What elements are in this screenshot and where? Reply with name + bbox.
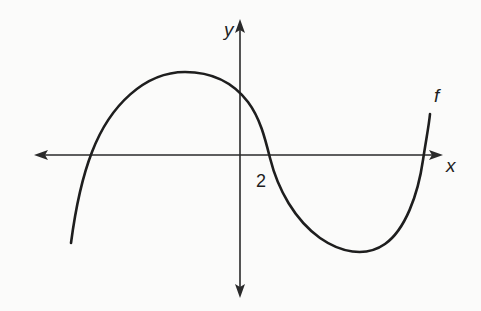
x-axis-label: x: [446, 156, 456, 175]
function-curve: [71, 72, 430, 252]
y-axis-label: y: [224, 20, 234, 39]
graph-canvas: [0, 0, 481, 311]
graph-figure: y x f 2: [0, 0, 481, 311]
x-intercept-label: 2: [256, 172, 266, 190]
function-label: f: [434, 86, 439, 105]
y-axis: [235, 19, 245, 298]
x-axis: [34, 150, 443, 160]
